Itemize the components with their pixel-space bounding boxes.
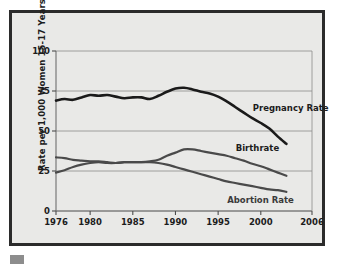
chart-plot-area: Rate per 1,000 Women 15-17 Years 0 25 50…	[12, 13, 322, 243]
x-tick-label: 1985	[116, 217, 150, 227]
y-tick-label: 75	[26, 86, 50, 96]
footer-swatch-icon	[10, 255, 24, 264]
y-tick-label: 100	[26, 46, 50, 56]
series-label-abortion-rate: Abortion Rate	[227, 195, 294, 205]
series-label-birthrate: Birthrate	[236, 143, 279, 153]
y-tick-label: 0	[26, 206, 50, 216]
x-tick-label: 2000	[244, 217, 278, 227]
x-tick-label: 1990	[158, 217, 192, 227]
page-root: Rate per 1,000 Women 15-17 Years 0 25 50…	[0, 0, 337, 270]
series-label-pregnancy-rate: Pregnancy Rate	[253, 103, 329, 113]
line-chart-svg	[12, 13, 322, 243]
y-tick-label: 50	[26, 126, 50, 136]
y-axis-label: Rate per 1,000 Women 15-17 Years	[37, 21, 47, 171]
x-tick-label: 1976	[39, 217, 73, 227]
chart-figure-frame: Rate per 1,000 Women 15-17 Years 0 25 50…	[9, 10, 325, 246]
x-tick-label: 2006	[295, 217, 329, 227]
x-tick-label: 1995	[201, 217, 235, 227]
series-line-pregnancy-rate	[56, 88, 286, 144]
y-tick-label: 25	[26, 166, 50, 176]
x-tick-label: 1980	[73, 217, 107, 227]
